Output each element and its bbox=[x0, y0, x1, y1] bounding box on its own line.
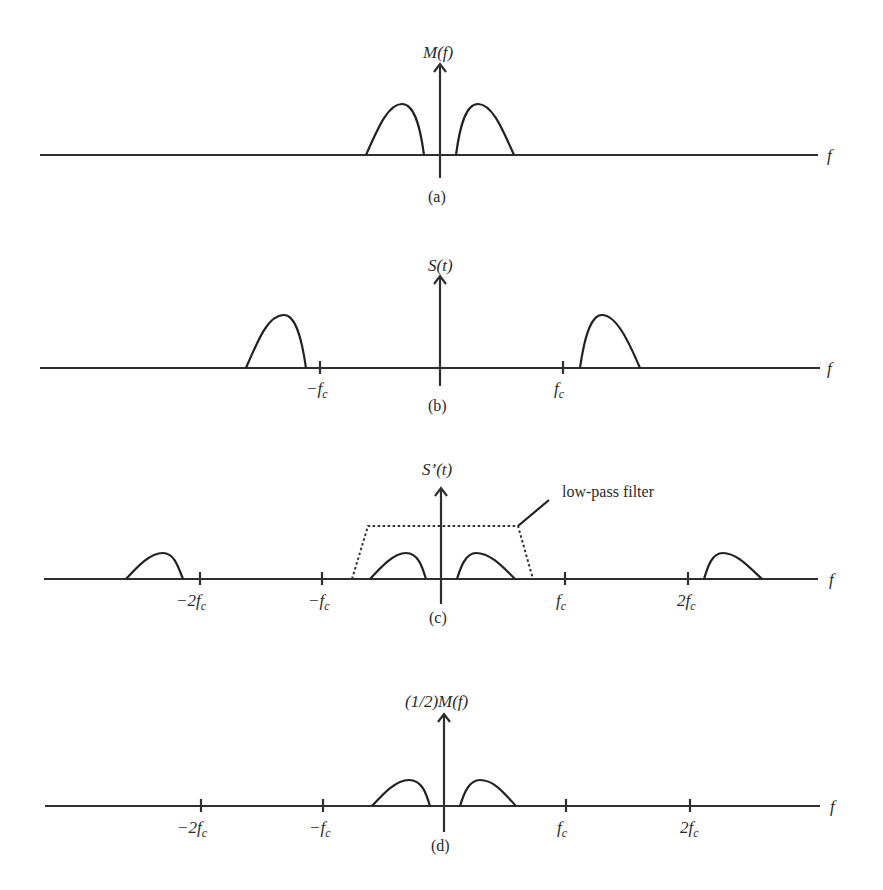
panel-caption: (c) bbox=[429, 609, 447, 627]
tick-label-neg-fc: −fc bbox=[308, 591, 330, 613]
panel-caption: (b) bbox=[428, 397, 447, 415]
spectrum-lobe-left bbox=[366, 104, 424, 155]
tick-label-2fc: 2fc bbox=[680, 818, 699, 840]
spectrum-lobe-left bbox=[246, 315, 306, 368]
panel-a: M(f) f (a) bbox=[40, 43, 834, 206]
tick-label-neg-2fc: −2fc bbox=[177, 818, 208, 840]
tick-label-fc: fc bbox=[554, 379, 565, 401]
spectrum-lobe-left bbox=[372, 780, 430, 806]
tick-label-2fc: 2fc bbox=[677, 591, 696, 613]
panel-caption: (d) bbox=[431, 837, 450, 855]
low-pass-filter-label: low-pass filter bbox=[562, 483, 655, 501]
spectrum-lobe-neg-2fc bbox=[126, 553, 183, 579]
panel-caption: (a) bbox=[428, 188, 446, 206]
y-axis-label: S’(t) bbox=[422, 460, 453, 479]
y-axis-label: M(f) bbox=[422, 43, 454, 62]
tick-label-neg-2fc: −2fc bbox=[176, 591, 207, 613]
x-axis-label: f bbox=[830, 797, 837, 816]
panel-c: low-pass filter S’(t) f −2fc −fc fc 2fc … bbox=[44, 460, 836, 627]
y-axis-label: (1/2)M(f) bbox=[405, 692, 469, 711]
x-axis-label: f bbox=[827, 146, 834, 165]
y-axis-label: S(t) bbox=[428, 256, 453, 275]
demodulation-spectrum-figure: M(f) f (a) S(t) f −fc fc (b) low-pass fi… bbox=[0, 0, 883, 890]
x-axis-label: f bbox=[827, 359, 834, 378]
tick-label-fc: fc bbox=[557, 818, 568, 840]
tick-label-neg-fc: −fc bbox=[306, 379, 328, 401]
spectrum-lobe-right bbox=[460, 780, 516, 806]
spectrum-lobe-baseband-right bbox=[457, 553, 515, 579]
spectrum-lobe-pos-2fc bbox=[704, 553, 762, 579]
tick-label-fc: fc bbox=[556, 591, 567, 613]
spectrum-lobe-right bbox=[456, 104, 514, 155]
spectrum-lobe-right bbox=[580, 315, 640, 368]
panel-b: S(t) f −fc fc (b) bbox=[40, 256, 834, 415]
x-axis-label: f bbox=[829, 570, 836, 589]
annotation-leader-line bbox=[518, 500, 549, 526]
tick-label-neg-fc: −fc bbox=[309, 818, 331, 840]
panel-d: (1/2)M(f) f −2fc −fc fc 2fc (d) bbox=[45, 692, 837, 855]
spectrum-lobe-baseband-left bbox=[370, 553, 426, 579]
